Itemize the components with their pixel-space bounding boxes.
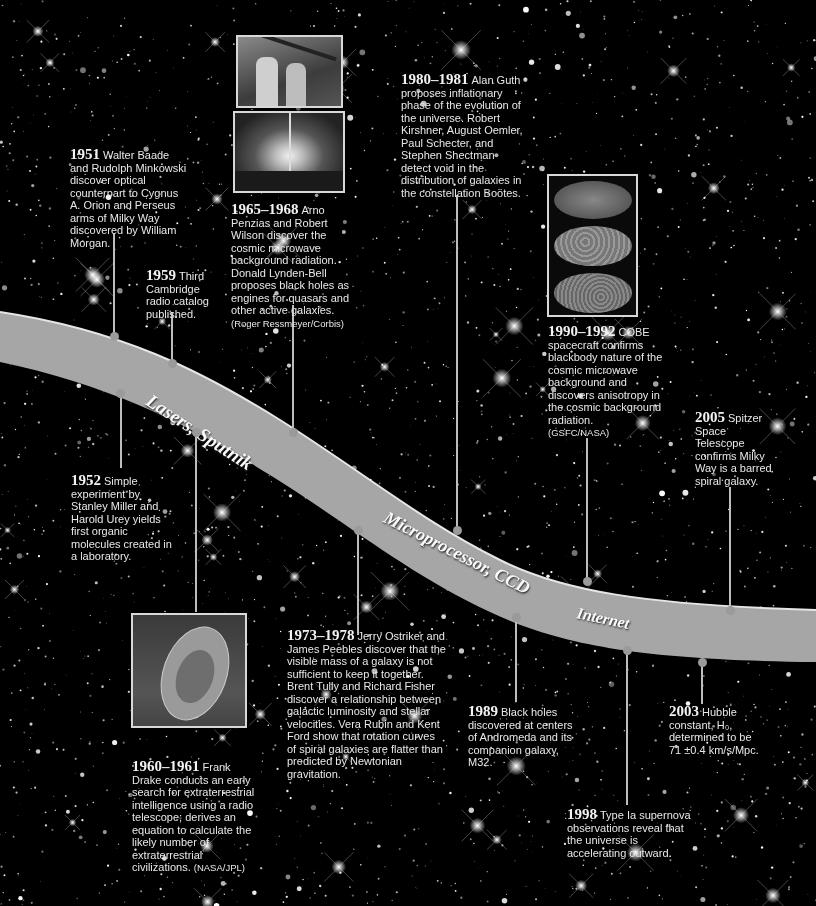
accretion-disk-diagram (233, 111, 345, 193)
marker-1965 (289, 428, 298, 437)
event-year: 1990–1992 (548, 323, 616, 339)
event-year: 1989 (468, 703, 498, 719)
photo-credit: (GSFC/NASA) (548, 427, 609, 438)
penzias-wilson-photo (236, 35, 343, 108)
leader-1990 (586, 438, 588, 578)
event-1989: 1989Black holes discovered at centers of… (468, 705, 580, 769)
event-year: 1959 (146, 267, 176, 283)
leader-1989 (515, 617, 517, 702)
event-1951: 1951Walter Baade and Rudolph Minkowski d… (70, 148, 188, 249)
marker-1980 (453, 526, 462, 535)
marker-2003 (698, 658, 707, 667)
event-text: Simple experiment by Stanley Miller and … (71, 475, 172, 562)
event-text: Jerry Ostriker and James Peebles discove… (287, 630, 446, 780)
marker-1998 (623, 646, 632, 655)
photo-credit: (NASA/JPL) (194, 862, 245, 873)
event-year: 1965–1968 (231, 201, 299, 217)
marker-1951 (110, 332, 119, 341)
leader-1980 (456, 195, 458, 530)
event-text: Alan Guth proposes inflationary phase of… (401, 74, 523, 199)
event-year: 2005 (695, 409, 725, 425)
event-text: Walter Baade and Rudolph Minkowski disco… (70, 149, 186, 249)
marker-1989 (512, 613, 521, 622)
event-text: Arno Penzias and Robert Wilson discover … (231, 204, 349, 316)
event-1952: 1952Simple experiment by Stanley Miller … (71, 474, 177, 563)
marker-1990 (583, 577, 592, 586)
event-year: 1951 (70, 146, 100, 162)
leader-1998 (626, 650, 628, 805)
leader-2005 (729, 487, 731, 609)
event-year: 1960–1961 (132, 758, 200, 774)
leader-1952 (120, 394, 122, 468)
event-1959: 1959Third Cambridge radio catalog publis… (146, 269, 212, 320)
event-text: Frank Drake conducts an early search for… (132, 761, 254, 873)
event-year: 1998 (567, 806, 597, 822)
event-text: COBE spacecraft confirms blackbody natur… (548, 326, 662, 426)
marker-1973 (354, 526, 363, 535)
radio-telescope-photo (131, 613, 247, 728)
event-1998: 1998Type Ia supernova observations revea… (567, 808, 697, 859)
event-year: 1973–1978 (287, 627, 355, 643)
event-1965-1968: 1965–1968Arno Penzias and Robert Wilson … (231, 203, 359, 330)
event-year: 1980–1981 (401, 71, 469, 87)
leader-2003 (701, 662, 703, 704)
event-1973-1978: 1973–1978Jerry Ostriker and James Peeble… (287, 629, 447, 780)
event-1980-1981: 1980–1981Alan Guth proposes inflationary… (401, 73, 523, 199)
marker-2005 (726, 606, 735, 615)
event-year: 1952 (71, 472, 101, 488)
event-1960-1961: 1960–1961Frank Drake conducts an early s… (132, 760, 260, 875)
leader-1960 (195, 432, 197, 612)
event-year: 2003 (669, 703, 699, 719)
event-1990-1992: 1990–1992COBE spacecraft confirms blackb… (548, 325, 666, 440)
marker-1952 (116, 389, 125, 398)
marker-1960 (192, 428, 201, 437)
marker-1959 (168, 359, 177, 368)
leader-1973 (357, 530, 359, 635)
cobe-sky-maps (547, 174, 638, 317)
photo-credit: (Roger Ressmeyer/Corbis) (231, 318, 344, 329)
event-2003: 2003Hubble constant, H₀, determined to b… (669, 705, 765, 756)
event-2005: 2005Spitzer Space Telescope confirms Mil… (695, 411, 775, 487)
timeline-poster: Lasers, Sputnik Microprocessor, CCD Inte… (0, 0, 816, 906)
